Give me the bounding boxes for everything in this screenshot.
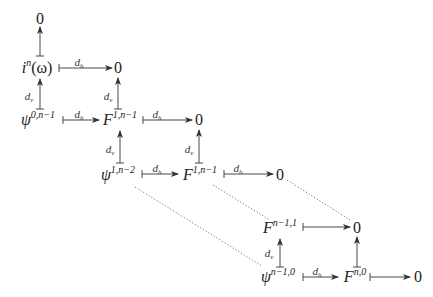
node-zero-r3: 0 [276, 167, 284, 183]
label-dv: dv [265, 247, 274, 259]
node-zero-r2: 0 [195, 112, 203, 128]
label-dh: dh [153, 162, 162, 174]
label-dh: dh [153, 108, 162, 120]
node-psi-0: ψ0,n−1 [21, 112, 55, 128]
node-F-1a: F1,n−1 [103, 112, 137, 128]
label-dv: dv [104, 90, 113, 102]
dotted-psi1-to-psin1 [135, 187, 262, 266]
label-dh: dh [75, 56, 84, 68]
label-dh: dh [75, 108, 84, 120]
label-dv: dv [25, 90, 34, 102]
dotted-F1b-to-Fn1 [213, 185, 270, 220]
node-zero-top: 0 [36, 11, 44, 27]
node-F-1b: F1,n−1 [183, 167, 217, 183]
diagram-arrows [0, 0, 433, 297]
dotted-zero-to-zero [287, 180, 350, 220]
node-F-n0: Fn,0 [344, 269, 366, 285]
label-dv: dv [185, 143, 194, 155]
node-psi-n1: ψn−1,0 [261, 269, 295, 285]
node-zero-r4: 0 [353, 220, 361, 236]
node-zero-r5: 0 [414, 269, 422, 285]
node-psi-1: ψ1,n−2 [101, 167, 135, 183]
node-zero-r1: 0 [114, 60, 122, 76]
label-dh: dh [234, 162, 243, 174]
node-F-n1: Fn−1,1 [263, 220, 297, 236]
label-dh: dh [313, 265, 322, 277]
node-i-omega: in(ω) [22, 60, 53, 76]
label-dv: dv [106, 143, 115, 155]
